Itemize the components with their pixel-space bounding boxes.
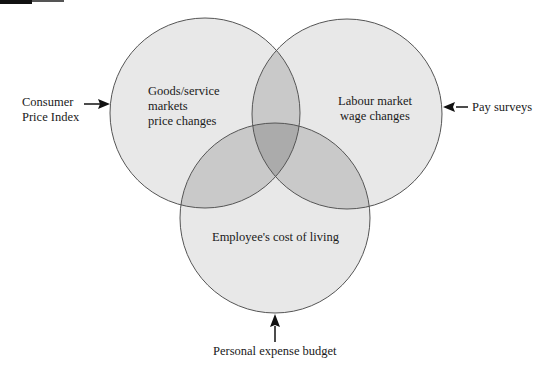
pay-surveys-label: Pay surveys [472,100,532,115]
arrow-cpi-icon [84,99,110,109]
goods-markets-label: Goods/service markets price changes [148,84,220,129]
goods-label-line2: markets [148,99,220,114]
cpi-label-line2: Price Index [22,110,79,125]
labour-market-label: Labour market wage changes [338,94,412,124]
living-label-line1: Employee's cost of living [212,230,339,245]
goods-label-line1: Goods/service [148,84,220,99]
cpi-label: Consumer Price Index [22,95,79,125]
budget-label-line1: Personal expense budget [213,344,337,359]
pay-label-line1: Pay surveys [472,100,532,115]
venn-diagram [0,0,552,366]
arrow-pay-surveys-icon [443,102,468,112]
circle-fills [110,18,442,313]
goods-label-line3: price changes [148,114,220,129]
arrow-budget-icon [270,314,280,342]
cpi-label-line1: Consumer [22,95,79,110]
labour-label-line1: Labour market [338,94,412,109]
labour-label-line2: wage changes [338,109,412,124]
cost-of-living-label: Employee's cost of living [212,230,339,245]
budget-label: Personal expense budget [213,344,337,359]
